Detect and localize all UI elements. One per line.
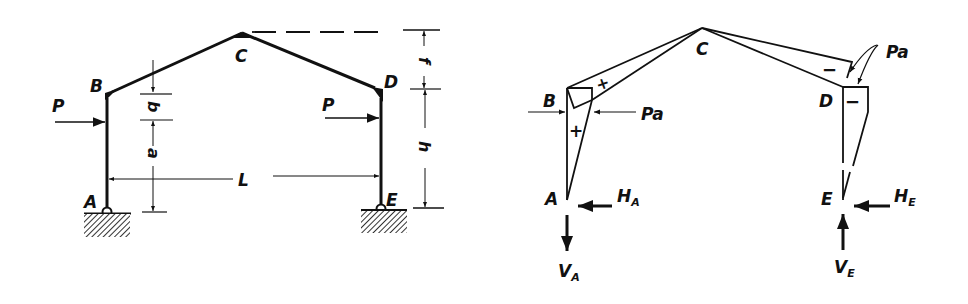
dim-label-a: a — [144, 148, 163, 159]
rafter-BC — [112, 33, 242, 92]
moment-node-label-E: E — [821, 189, 833, 209]
reaction-HA-subscript: A — [630, 196, 640, 209]
haunch-B — [105, 89, 117, 100]
dim-label-b: b — [144, 101, 163, 112]
rafter-CD — [242, 33, 375, 88]
dim-label-f: f — [415, 57, 434, 66]
reaction-VA-subscript: A — [570, 271, 580, 284]
moment-label-right-pa: Pa — [886, 42, 909, 62]
reaction-VE-subscript: E — [847, 267, 855, 280]
support-hatch-E — [361, 211, 407, 233]
sign-DE: − — [845, 91, 860, 112]
load-label-right: P — [322, 95, 335, 115]
moment-label-left-pa: Pa — [641, 104, 664, 124]
sign-CD: − — [822, 59, 837, 80]
load-label-left: P — [52, 96, 65, 116]
node-label-E: E — [386, 190, 398, 210]
moment-diagram: + + − − Pa Pa A B C D E HA VA HE VE — [528, 28, 916, 284]
reaction-VE-label: VE — [834, 257, 855, 280]
haunch-D — [372, 87, 383, 102]
moment-B-corner — [567, 88, 592, 108]
node-label-A: A — [82, 192, 97, 212]
reaction-HE-symbol: H — [894, 186, 908, 206]
moment-node-label-A: A — [543, 189, 558, 209]
reaction-HA-label: HA — [617, 186, 640, 209]
axis-BC — [567, 28, 702, 88]
dimensions: b a L f h — [109, 30, 444, 212]
node-label-D: D — [384, 72, 398, 92]
moment-node-label-B: B — [543, 91, 556, 111]
reaction-VA-label: VA — [558, 261, 580, 284]
diagram-canvas: P P A B C D E b a L f h — [0, 0, 968, 304]
dim-label-h: h — [415, 141, 434, 152]
loads: P P — [52, 95, 379, 122]
sign-BC: + — [593, 72, 612, 94]
reaction-HE-label: HE — [894, 186, 916, 209]
pa-leader-right-1 — [850, 45, 877, 72]
moment-DE-lower-tip — [843, 172, 850, 198]
reaction-HA-symbol: H — [617, 186, 631, 206]
moment-node-label-C: C — [696, 39, 709, 59]
node-label-C: C — [235, 46, 248, 66]
node-label-B: B — [90, 76, 103, 96]
support-hatch-A — [84, 214, 130, 237]
reaction-HE-subscript: E — [908, 196, 916, 209]
sign-AB: + — [569, 121, 583, 141]
dim-label-L: L — [238, 170, 249, 190]
moment-node-label-D: D — [819, 91, 833, 111]
